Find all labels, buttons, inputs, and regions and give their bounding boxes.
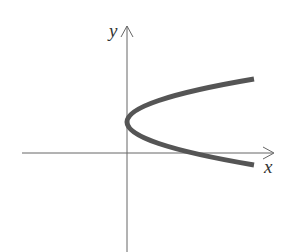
x-axis-label: x [264,157,272,176]
parabola-figure [0,0,299,252]
y-axis-label: y [109,21,117,40]
parabola-curve [127,79,254,165]
